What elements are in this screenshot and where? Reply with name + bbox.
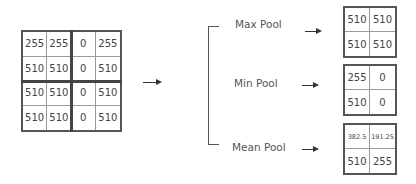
mean-pool-result: 382.5 191.25 510 255 [343, 123, 397, 175]
result-cell: 510 [345, 90, 370, 114]
input-cell: 255 [47, 32, 71, 57]
result-cell: 255 [370, 149, 395, 173]
input-cell: 510 [47, 57, 71, 82]
result-cell: 255 [345, 66, 370, 90]
input-cell: 0 [72, 81, 96, 106]
arrow-icon [305, 31, 320, 32]
result-cell: 510 [370, 32, 395, 56]
result-cell: 510 [370, 8, 395, 32]
input-cell: 510 [23, 81, 47, 106]
result-cell: 382.5 [345, 125, 370, 149]
input-cell: 510 [23, 106, 47, 131]
bracket [208, 26, 219, 145]
result-cell: 0 [370, 90, 395, 114]
input-cell: 510 [96, 106, 120, 131]
result-cell: 510 [345, 32, 370, 56]
arrow-icon [143, 82, 160, 83]
max-pool-result: 510 510 510 510 [343, 6, 397, 58]
arrow-icon [302, 149, 317, 150]
arrow-icon [302, 85, 317, 86]
result-cell: 510 [345, 149, 370, 173]
min-pool-result: 255 0 510 0 [343, 64, 397, 116]
result-cell: 0 [370, 66, 395, 90]
input-cell: 510 [47, 81, 71, 106]
input-cell: 510 [23, 57, 47, 82]
input-cell: 255 [23, 32, 47, 57]
input-cell: 0 [72, 32, 96, 57]
input-cell: 255 [96, 32, 120, 57]
input-cell: 510 [96, 81, 120, 106]
input-cell: 0 [72, 106, 96, 131]
input-cell: 510 [96, 57, 120, 82]
mean-pool-label: Mean Pool [232, 141, 286, 153]
result-cell: 191.25 [370, 125, 395, 149]
result-cell: 510 [345, 8, 370, 32]
pool-window-divider-horizontal [21, 80, 122, 83]
max-pool-label: Max Pool [235, 18, 282, 30]
input-cell: 0 [72, 57, 96, 82]
input-cell: 510 [47, 106, 71, 131]
min-pool-label: Min Pool [234, 77, 278, 89]
